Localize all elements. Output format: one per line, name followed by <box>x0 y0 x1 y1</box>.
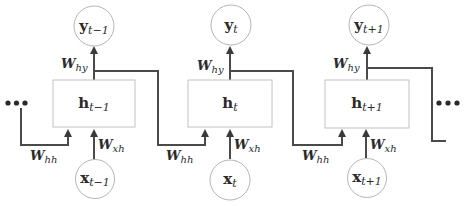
weight-label-xh-2: Wxh <box>234 137 261 154</box>
weight-label-hy-3: Why <box>333 56 360 73</box>
weight-label-xh-1: Wxh <box>98 137 125 154</box>
weight-label-xh-3: Wxh <box>370 137 397 154</box>
weight-label-hh-2: Whh <box>166 148 194 165</box>
weight-label-hh-3: Whh <box>302 148 330 165</box>
rnn-diagram: yt−1 yt yt+1 ht−1 ht ht+1 xt−1 xt xt+1 W… <box>0 0 465 206</box>
ellipsis-right <box>436 100 459 105</box>
weight-label-hy-2: Why <box>197 58 224 75</box>
ellipsis-left <box>5 100 27 105</box>
weight-label-hy-1: Why <box>61 56 88 73</box>
weight-label-hh-1: Whh <box>30 148 58 165</box>
